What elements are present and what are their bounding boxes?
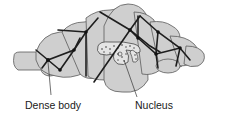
smooth-muscle-cell-diagram: Dense body Nucleus: [0, 0, 228, 122]
nucleus-label: Nucleus: [135, 100, 173, 111]
dense-body-label: Dense body: [25, 100, 81, 111]
